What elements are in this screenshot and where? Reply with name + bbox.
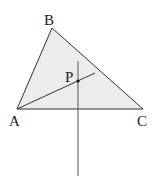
geometry-diagram: B P A C (0, 0, 156, 192)
point-p-dot (76, 79, 79, 82)
label-c: C (137, 113, 147, 129)
label-p: P (65, 69, 73, 85)
label-b: B (44, 12, 54, 28)
triangle-abc (17, 28, 143, 109)
label-a: A (9, 113, 20, 129)
